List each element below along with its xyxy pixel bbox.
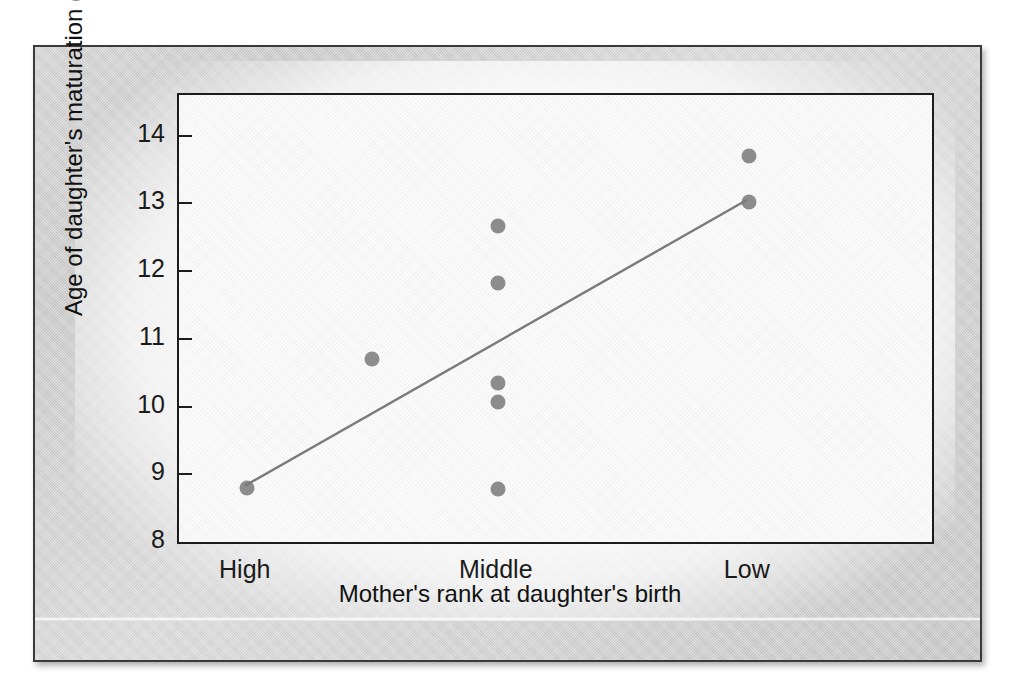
x-axis-tick-label: Low xyxy=(724,557,770,582)
plot-area xyxy=(177,93,934,544)
data-point xyxy=(490,394,505,409)
y-axis-tick-label: 11 xyxy=(115,324,165,349)
y-axis-tick xyxy=(179,135,192,137)
x-axis-tick-label: Middle xyxy=(459,557,533,582)
data-point xyxy=(490,482,505,497)
y-axis-tick-label: 13 xyxy=(115,188,165,213)
y-axis-tick xyxy=(179,202,192,204)
data-point xyxy=(490,275,505,290)
y-axis-tick-label: 10 xyxy=(115,392,165,417)
data-point xyxy=(239,480,254,495)
y-axis-tick-label: 8 xyxy=(115,527,165,552)
y-axis-tick xyxy=(179,473,192,475)
y-axis-tick xyxy=(179,406,192,408)
scatter-chart: 891011121314 HighMiddleLow Age of daught… xyxy=(0,0,1020,685)
y-axis-tick xyxy=(179,270,192,272)
y-axis-title: Age of daughter's maturation (years) xyxy=(60,0,88,316)
data-point xyxy=(490,218,505,233)
data-point xyxy=(741,148,756,163)
plot-texture-overlay xyxy=(179,95,932,542)
data-point xyxy=(490,375,505,390)
y-axis-tick-label: 12 xyxy=(115,256,165,281)
x-axis-tick-label: High xyxy=(219,557,270,582)
data-point xyxy=(365,352,380,367)
y-axis-tick-label: 14 xyxy=(115,121,165,146)
y-axis-tick xyxy=(179,338,192,340)
data-point xyxy=(741,195,756,210)
x-axis-title: Mother's rank at daughter's birth xyxy=(0,580,1020,608)
y-axis-tick-label: 9 xyxy=(115,459,165,484)
